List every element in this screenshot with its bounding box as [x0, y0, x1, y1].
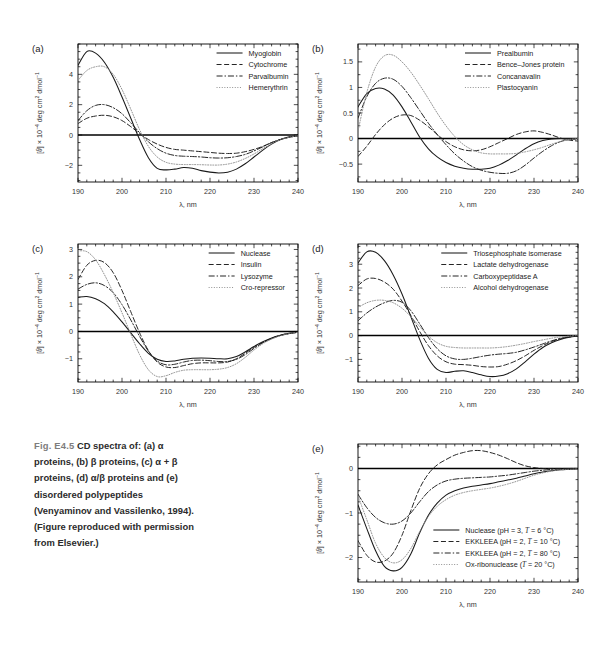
curve-ekkleea-ph-2-t-80-c: [358, 468, 578, 524]
x-tick-label: 210: [440, 587, 452, 596]
curve-lysozyme: [78, 283, 298, 365]
legend-label: Nuclease: [241, 249, 271, 258]
x-tick-label: 200: [116, 187, 128, 196]
x-tick-label: 200: [396, 387, 408, 396]
x-tick-label: 190: [352, 587, 364, 596]
figure-caption: Fig. E4.5 CD spectra of: (a) α proteins,…: [34, 438, 202, 551]
svg-text:[θ] × 10−4 deg cm2 dmol−1: [θ] × 10−4 deg cm2 dmol−1: [314, 272, 324, 354]
x-tick-label: 210: [440, 387, 452, 396]
svg-text:[θ] × 10−4 deg cm2 dmol−1: [θ] × 10−4 deg cm2 dmol−1: [34, 272, 44, 354]
legend-label: Myoglobin: [249, 49, 282, 58]
svg-text:[θ] × 10−4 deg cm2 dmol−1: [θ] × 10−4 deg cm2 dmol−1: [314, 472, 324, 554]
panel-b-plot: (b)190200210220230240−0.500.511.5λ, nm[θ…: [306, 30, 589, 226]
panel-e-disordered-polypeptides: (e)190200210220230240−2−10λ, nm[θ] × 10−…: [306, 430, 589, 626]
x-tick-label: 240: [292, 187, 304, 196]
panel-d-legend: Triosephosphate isomeraseLactate dehydro…: [441, 249, 561, 293]
panel-a-alpha-proteins: (a)190200210220230240−2024λ, nm[θ] × 10−…: [26, 30, 309, 226]
panel-a-legend: MyoglobinCytochromeParvalbuminHemerythri…: [217, 49, 289, 93]
x-tick-label: 200: [396, 187, 408, 196]
legend-label: Hemerythrin: [249, 83, 288, 92]
legend-label: Alcohol dehydrogenase: [473, 283, 548, 292]
y-tick-label: 1: [349, 83, 353, 92]
x-tick-label: 220: [204, 387, 216, 396]
x-tick-label: 240: [572, 187, 584, 196]
legend-label: Triosephosphate isomerase: [473, 249, 561, 258]
x-axis-title: λ, nm: [179, 200, 197, 209]
y-tick-label: 0: [349, 464, 353, 473]
y-tick-label: −1: [345, 355, 353, 364]
x-axis-title: λ, nm: [179, 400, 197, 409]
y-tick-label: 1: [349, 307, 353, 316]
legend-label: EKKLEEA (pH = 2, T = 80 °C): [465, 549, 560, 558]
svg-text:[θ] × 10−4 deg cm2 dmol−1: [θ] × 10−4 deg cm2 dmol−1: [314, 72, 324, 154]
curve-bence-jones-protein: [358, 115, 578, 157]
panel-e-plot: (e)190200210220230240−2−10λ, nm[θ] × 10−…: [306, 430, 589, 626]
y-tick-label: 0: [349, 331, 353, 340]
curve-hemerythrin: [78, 66, 298, 165]
x-tick-label: 230: [248, 187, 260, 196]
x-tick-label: 230: [528, 187, 540, 196]
legend-label: Prealbumin: [497, 49, 533, 58]
panel-c-legend: NucleaseInsulinLysozymeCro-repressor: [209, 249, 286, 293]
legend-label: EKKLEEA (pH = 2, T = 10 °C): [465, 537, 560, 546]
x-tick-label: 220: [484, 387, 496, 396]
curve-nuclease: [78, 296, 298, 361]
figure-caption-text: CD spectra of: (a) α proteins, (b) β pro…: [34, 440, 194, 548]
y-tick-label: −1: [345, 509, 353, 518]
panel-b-legend: PrealbuminBence–Jones proteinConcanavali…: [465, 49, 565, 93]
x-axis-title: λ, nm: [459, 600, 477, 609]
legend-label: Cytochrome: [249, 60, 288, 69]
x-tick-label: 240: [572, 587, 584, 596]
curve-alcohol-dehydrogenase: [358, 300, 578, 348]
legend-label: Cro-repressor: [241, 283, 286, 292]
y-tick-label: 0: [69, 131, 73, 140]
y-tick-label: 2: [69, 272, 73, 281]
y-axis-title: [θ] × 10−4 deg cm2 dmol−1: [34, 72, 44, 154]
y-tick-label: 0.5: [343, 109, 353, 118]
x-tick-label: 240: [572, 387, 584, 396]
y-axis-title: [θ] × 10−4 deg cm2 dmol−1: [34, 272, 44, 354]
y-tick-label: 0: [69, 327, 73, 336]
spectra-curves: [78, 251, 298, 377]
y-tick-label: 4: [69, 70, 73, 79]
panel-c-alpha-beta-proteins: (c)190200210220230240−10123λ, nm[θ] × 10…: [26, 230, 309, 426]
y-tick-label: −2: [65, 161, 73, 170]
x-axis-title: λ, nm: [459, 400, 477, 409]
x-tick-label: 220: [484, 187, 496, 196]
x-tick-label: 240: [292, 387, 304, 396]
x-tick-label: 190: [352, 387, 364, 396]
curve-concanavalin: [358, 78, 578, 174]
panel-label: (e): [312, 443, 324, 454]
x-tick-label: 190: [72, 187, 84, 196]
legend-label: Carboxypeptidase A: [473, 272, 538, 281]
legend-label: Insulin: [241, 260, 262, 269]
y-axis-title: [θ] × 10−4 deg cm2 dmol−1: [314, 72, 324, 154]
y-tick-label: 2: [69, 100, 73, 109]
curve-carboxypeptidase-a: [358, 300, 578, 359]
x-axis-title: λ, nm: [459, 200, 477, 209]
legend-label: Concanavalin: [497, 72, 541, 81]
x-tick-label: 230: [248, 387, 260, 396]
panel-label: (b): [312, 43, 324, 54]
curve-parvalbumin: [78, 104, 298, 158]
x-tick-label: 220: [204, 187, 216, 196]
legend-label: Plastocyanin: [497, 83, 538, 92]
y-tick-label: 2: [349, 284, 353, 293]
x-tick-label: 200: [396, 587, 408, 596]
y-tick-label: 0: [349, 134, 353, 143]
y-tick-label: −1: [65, 354, 73, 363]
curve-triosephosphate-isomerase: [358, 251, 578, 377]
legend-label: Lactate dehydrogenase: [473, 260, 548, 269]
panel-d-alpha-over-beta-proteins: (d)190200210220230240−10123λ, nm[θ] × 10…: [306, 230, 589, 426]
panel-a-plot: (a)190200210220230240−2024λ, nm[θ] × 10−…: [26, 30, 309, 226]
figure-e4-5: (a)190200210220230240−2024λ, nm[θ] × 10−…: [0, 0, 615, 649]
legend-label: Bence–Jones protein: [497, 60, 565, 69]
curve-prealbumin: [358, 88, 578, 169]
figure-number: Fig. E4.5: [34, 440, 74, 451]
x-tick-label: 210: [160, 387, 172, 396]
x-tick-label: 210: [440, 187, 452, 196]
legend-label: Ox-ribonuclease (T = 20 °C): [465, 560, 554, 569]
y-tick-label: 1: [69, 300, 73, 309]
panel-c-plot: (c)190200210220230240−10123λ, nm[θ] × 10…: [26, 230, 309, 426]
spectra-curves: [358, 251, 578, 377]
